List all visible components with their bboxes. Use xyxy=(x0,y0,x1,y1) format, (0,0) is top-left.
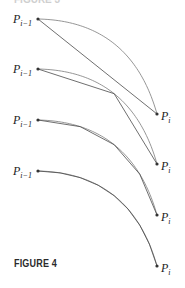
panel-1 xyxy=(36,17,158,115)
figure-caption: FIGURE 4 xyxy=(14,258,57,269)
start-point xyxy=(36,118,39,121)
panel-4-start-label: Pi−1 xyxy=(13,165,32,182)
panel-1-start-label: Pi−1 xyxy=(13,13,32,30)
end-point xyxy=(155,162,158,165)
panel-3-start-label: Pi−1 xyxy=(13,114,32,131)
end-point xyxy=(155,112,158,115)
panel-2 xyxy=(36,67,158,165)
panel-4 xyxy=(36,169,158,267)
start-point xyxy=(36,169,39,172)
panel-1-end-label: Pi xyxy=(161,110,171,127)
start-point xyxy=(36,67,39,70)
arc-length-approximation-diagram xyxy=(0,0,185,288)
panel-2-start-label: Pi−1 xyxy=(13,63,32,80)
panel-2-end-label: Pi xyxy=(161,160,171,177)
panel-3-end-label: Pi xyxy=(161,211,171,228)
panel-4-end-label: Pi xyxy=(161,262,171,279)
inscribed-polygon xyxy=(38,171,157,266)
start-point xyxy=(36,17,39,20)
arc-curve xyxy=(38,69,157,164)
end-point xyxy=(155,264,158,267)
panel-3 xyxy=(36,118,158,216)
end-point xyxy=(155,213,158,216)
